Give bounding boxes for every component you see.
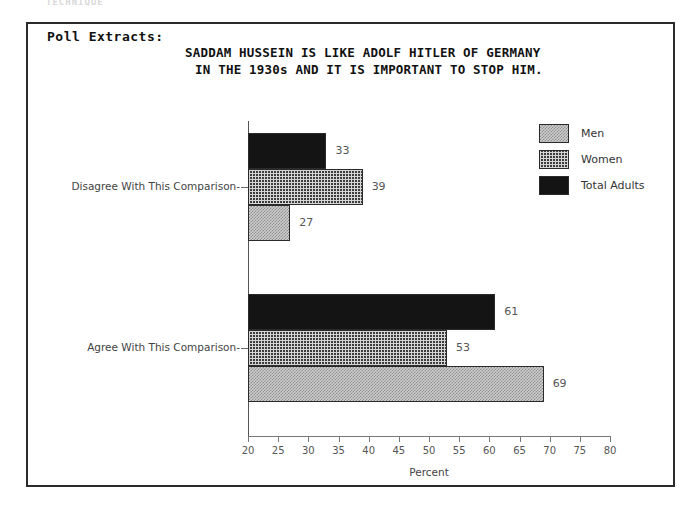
poll-extract-figure: TECHNIQUE Poll Extracts: SADDAM HUSSEIN … (0, 0, 699, 508)
x-tick-label: 80 (604, 445, 617, 456)
category-label: Disagree With This Comparison- (0, 180, 240, 192)
bar (248, 205, 290, 241)
bar (248, 330, 447, 366)
legend-label-total-adults: Total Adults (581, 179, 645, 192)
clipped-artifact-text: TECHNIQUE (46, 0, 104, 7)
x-tick (580, 436, 581, 442)
legend-label-women: Women (581, 153, 622, 166)
x-tick-label: 50 (423, 445, 436, 456)
legend-swatch-men-icon (539, 124, 569, 143)
x-tick-label: 35 (332, 445, 345, 456)
category-tick (241, 187, 248, 188)
x-tick (520, 436, 521, 442)
x-tick-label: 55 (453, 445, 466, 456)
bar (248, 169, 363, 205)
x-tick-label: 45 (392, 445, 405, 456)
x-tick (278, 436, 279, 442)
x-tick (308, 436, 309, 442)
x-tick-label: 40 (362, 445, 375, 456)
x-tick (489, 436, 490, 442)
chart-title-line-1: SADDAM HUSSEIN IS LIKE ADOLF HITLER OF G… (185, 45, 540, 60)
x-tick (550, 436, 551, 442)
chart-title: SADDAM HUSSEIN IS LIKE ADOLF HITLER OF G… (185, 44, 625, 78)
chart-title-line-2: IN THE 1930s AND IT IS IMPORTANT TO STOP… (185, 61, 625, 78)
legend-swatch-women-icon (539, 150, 569, 169)
x-axis-label: Percent (248, 466, 610, 478)
x-tick-label: 65 (513, 445, 526, 456)
x-tick (429, 436, 430, 442)
bar-value-label: 53 (456, 341, 470, 354)
x-tick-label: 25 (272, 445, 285, 456)
bar-value-label: 61 (504, 305, 518, 318)
x-tick-label: 20 (242, 445, 255, 456)
x-tick (610, 436, 611, 442)
x-tick (248, 436, 249, 442)
bar-value-label: 27 (299, 216, 313, 229)
x-tick (339, 436, 340, 442)
bar-value-label: 69 (553, 377, 567, 390)
x-tick (459, 436, 460, 442)
bar (248, 294, 495, 330)
bar-value-label: 39 (372, 180, 386, 193)
x-tick-label: 75 (573, 445, 586, 456)
legend-label-men: Men (581, 127, 604, 140)
bar (248, 366, 544, 402)
x-tick-label: 60 (483, 445, 496, 456)
bar (248, 133, 326, 169)
category-tick (241, 348, 248, 349)
poll-extracts-label: Poll Extracts: (47, 29, 164, 44)
x-tick (369, 436, 370, 442)
bar-value-label: 33 (335, 144, 349, 157)
x-tick-label: 70 (543, 445, 556, 456)
legend-swatch-total-adults-icon (539, 176, 569, 195)
category-label: Agree With This Comparison- (0, 341, 240, 353)
x-tick (399, 436, 400, 442)
x-tick-label: 30 (302, 445, 315, 456)
